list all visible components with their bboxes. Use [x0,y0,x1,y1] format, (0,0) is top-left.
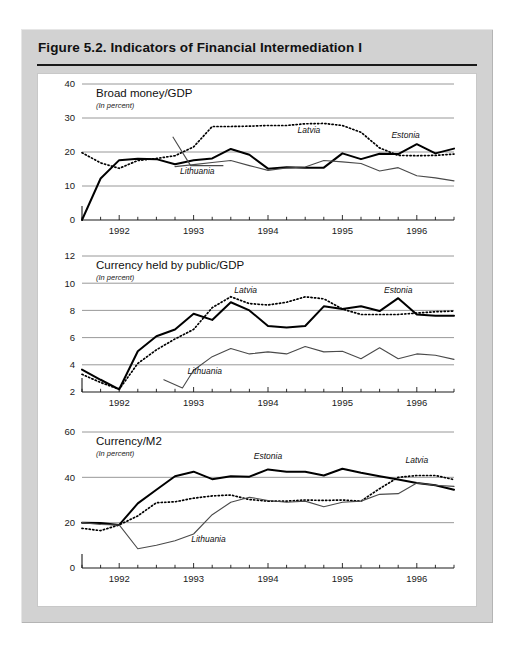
figure-frame: Figure 5.2. Indicators of Financial Inte… [21,29,493,623]
y-axis-tick-label: 12 [64,250,75,261]
series-annotation-latvia: Latvia [234,285,257,295]
series-annotation-estonia: Estonia [254,451,283,461]
series-line-lithuania [175,161,454,181]
chart-subtitle: (In percent) [96,101,135,110]
series-annotation-lithuania: Lithuania [180,166,215,176]
x-axis-tick-label: 1994 [257,397,278,408]
x-axis-tick-label: 1996 [406,397,427,408]
series-annotation-estonia: Estonia [384,285,413,295]
y-axis-tick-label: 4 [70,359,75,370]
x-axis-tick-label: 1995 [332,225,353,236]
x-axis-tick-label: 1996 [406,573,427,584]
x-axis-tick-label: 1995 [332,573,353,584]
y-axis-tick-label: 0 [70,562,75,573]
title-divider [37,64,477,66]
series-annotation-lithuania: Lithuania [191,534,226,544]
y-axis-tick-label: 40 [64,472,75,483]
x-axis-tick-label: 1992 [109,225,130,236]
x-axis-tick-label: 1993 [183,397,204,408]
x-axis-tick-label: 1992 [109,573,130,584]
chart-title: Currency held by public/GDP [96,259,245,271]
y-axis-tick-label: 8 [70,305,75,316]
chart-subtitle: (In percent) [96,449,135,458]
y-axis-tick-label: 2 [70,386,75,397]
x-axis-tick-label: 1993 [183,573,204,584]
y-axis-tick-label: 10 [64,278,75,289]
x-axis-tick-label: 1994 [257,225,278,236]
x-axis-tick-label: 1996 [406,225,427,236]
series-annotation-estonia: Estonia [391,130,420,140]
series-annotation-latvia: Latvia [298,125,321,135]
chart-svg: 020406019921993199419951996Currency/M2(I… [38,422,478,602]
chart-svg: 01020304019921993199419951996Broad money… [38,74,478,252]
y-axis-tick-label: 40 [64,78,75,89]
y-axis-tick-label: 10 [64,180,75,191]
chart-panel-broad-money-gdp: 01020304019921993199419951996Broad money… [38,74,478,252]
figure-title: Figure 5.2. Indicators of Financial Inte… [38,40,362,55]
charts-container: 01020304019921993199419951996Broad money… [37,73,477,607]
y-axis-tick-label: 6 [70,332,75,343]
y-axis-tick-label: 60 [64,426,75,437]
x-axis-tick-label: 1994 [257,573,278,584]
x-axis-tick-label: 1995 [332,397,353,408]
chart-title: Currency/M2 [96,435,162,447]
y-axis-tick-label: 20 [64,146,75,157]
y-axis-tick-label: 0 [70,214,75,225]
chart-title: Broad money/GDP [96,87,193,99]
series-annotation-latvia: Latvia [405,455,428,465]
chart-panel-currency-m2: 020406019921993199419951996Currency/M2(I… [38,422,478,602]
series-annotation-lithuania: Lithuania [188,366,223,376]
x-axis-tick-label: 1993 [183,225,204,236]
series-line-estonia [82,144,454,220]
chart-panel-currency-held-by-public-gdp: 2468101219921993199419951996Currency hel… [38,246,478,424]
y-axis-tick-label: 20 [64,517,75,528]
series-line-estonia [82,298,454,389]
x-axis-tick-label: 1992 [109,397,130,408]
chart-subtitle: (In percent) [96,273,135,282]
chart-svg: 2468101219921993199419951996Currency hel… [38,246,478,424]
y-axis-tick-label: 30 [64,112,75,123]
